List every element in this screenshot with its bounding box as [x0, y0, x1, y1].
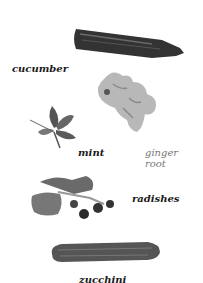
ginger-root-image [93, 68, 163, 136]
zucchini-label: zucchini [79, 274, 126, 283]
cucumber-label: cucumber [12, 63, 68, 74]
cucumber-image [72, 26, 188, 66]
ginger-root-label: ginger root [145, 147, 178, 169]
ginger-root-label-line1: ginger [145, 147, 178, 158]
radishes-label: radishes [132, 193, 179, 204]
radishes-image [30, 174, 120, 226]
zucchini-image [48, 240, 162, 264]
mint-label: mint [78, 147, 104, 158]
mint-image [26, 102, 82, 150]
ginger-root-label-line2: root [145, 158, 178, 169]
